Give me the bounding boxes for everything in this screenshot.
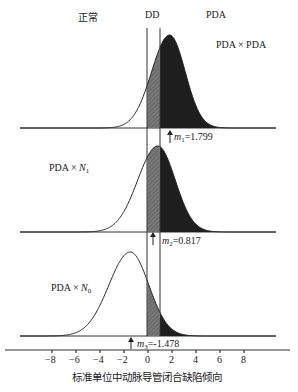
x-axis-label: 标准单位中动脉导管闭合缺陷倾向 [72,369,222,384]
panel-label-pda-x-n0: PDA × N0 [51,282,91,295]
pda-region-fill [160,147,276,232]
mean-label-m2: m2=0.817 [162,235,201,248]
mean-arrow-m1 [167,130,173,143]
x-tick-label: −2 [117,354,128,365]
panel-label-pda-x-pda: PDA × PDA [216,39,266,50]
liability-threshold-chart [0,0,298,392]
x-tick-label: 2 [169,354,174,365]
mean-arrow-m2 [150,232,156,245]
x-tick-label: −8 [45,354,56,365]
region-label-normal: 正常 [78,9,98,24]
mean-arrow-m3 [128,337,134,349]
x-tick-label: −4 [93,354,104,365]
x-tick-label: −6 [69,354,80,365]
x-tick-label: 8 [241,354,246,365]
region-label-dd: DD [145,9,159,20]
x-tick-label: 0 [145,354,150,365]
region-label-pda: PDA [206,9,226,20]
panel-label-pda-x-n1: PDA × N1 [49,162,89,175]
dd-region-fill [147,49,160,128]
dd-region-fill [147,146,160,232]
mean-label-m1: m1=1.799 [174,131,213,144]
x-tick-label: 6 [217,354,222,365]
mean-label-m3: m3=-1.478 [137,338,179,351]
x-tick-label: 4 [193,354,198,365]
